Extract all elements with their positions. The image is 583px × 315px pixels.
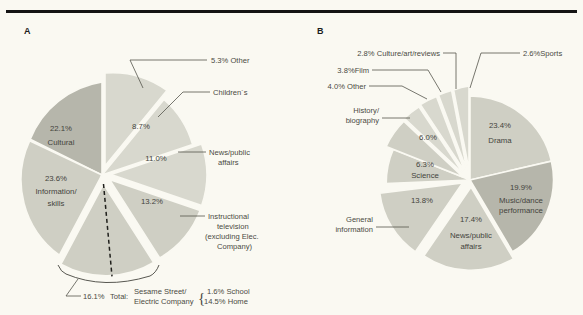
pie-b-label-history-line1: History/ [353, 106, 380, 115]
pie-b-label-music-line2: performance [499, 206, 543, 215]
pie-b-leader-culture [443, 53, 456, 89]
pie-b-label-culture: 2.8% Culture/art/reviews [357, 49, 440, 58]
pie-b-leader-other [369, 86, 427, 99]
pie-b-label-science-pct: 6.3% [416, 160, 434, 169]
figure-canvas: A B 22.1% Cultural 23.6% Informatio [0, 0, 583, 315]
pie-b-label-sports: 2.6%Sports [523, 49, 562, 58]
pie-b-label-general-line2: information [335, 225, 373, 234]
pie-b-label-film: 3.8%Film [337, 66, 369, 75]
pie-b-label-general-line1: General [346, 215, 373, 224]
pie-b-label-drama-name: Drama [488, 136, 512, 145]
pie-b-label-science-name: Science [411, 171, 439, 180]
pie-b-label-music-line1: Music/dance [499, 196, 543, 205]
pie-b-leader-sports [470, 53, 520, 88]
pie-b-label-history-pct: 6.0% [419, 133, 437, 142]
pie-b-label-history-line2: biography [346, 116, 380, 125]
pie-b-label-news-pct: 17.4% [460, 215, 482, 224]
pie-b-label-general-pct: 13.8% [411, 196, 433, 205]
pie-b-label-music-pct: 19.9% [510, 183, 532, 192]
pie-b-label-drama-pct: 23.4% [489, 121, 511, 130]
pie-b-label-news-line2: affairs [460, 242, 481, 251]
pie-b-label-other: 4.0% Other [328, 82, 367, 91]
panel-b-chart: 23.4% Drama 19.9% Music/dance performanc… [0, 0, 583, 315]
pie-b-label-news-line1: News/public [450, 231, 492, 240]
